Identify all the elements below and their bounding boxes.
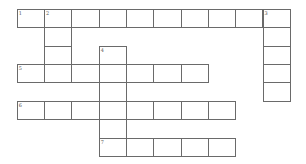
crossword-cell[interactable]	[208, 9, 236, 28]
crossword-cell[interactable]	[126, 101, 154, 120]
crossword-cell[interactable]: 6	[17, 101, 45, 120]
crossword-cell[interactable]	[263, 46, 291, 65]
crossword-cell[interactable]	[99, 82, 127, 101]
crossword-cell[interactable]	[44, 101, 72, 120]
crossword-cell[interactable]	[126, 138, 154, 157]
crossword-cell[interactable]: 7	[99, 138, 127, 157]
crossword-cell[interactable]	[44, 46, 72, 65]
crossword-cell[interactable]	[153, 64, 181, 83]
crossword-cell[interactable]	[263, 82, 291, 101]
crossword-cell[interactable]	[99, 119, 127, 138]
crossword-cell[interactable]	[208, 101, 236, 120]
crossword-cell[interactable]	[235, 9, 263, 28]
crossword-cell[interactable]	[44, 27, 72, 46]
crossword-cell[interactable]	[153, 9, 181, 28]
crossword-cell[interactable]	[263, 27, 291, 46]
crossword-cell[interactable]: 3	[263, 9, 291, 28]
crossword-grid: 1234567	[0, 0, 306, 164]
crossword-cell[interactable]	[181, 64, 209, 83]
crossword-cell[interactable]	[181, 101, 209, 120]
clue-number: 7	[101, 139, 104, 145]
crossword-cell[interactable]	[99, 101, 127, 120]
crossword-cell[interactable]: 5	[17, 64, 45, 83]
crossword-cell[interactable]	[44, 64, 72, 83]
crossword-cell[interactable]	[153, 101, 181, 120]
clue-number: 4	[101, 47, 104, 53]
clue-number: 6	[19, 102, 22, 108]
clue-number: 3	[265, 10, 268, 16]
crossword-cell[interactable]	[126, 64, 154, 83]
crossword-cell[interactable]	[71, 9, 99, 28]
crossword-cell[interactable]	[99, 64, 127, 83]
crossword-cell[interactable]	[181, 138, 209, 157]
crossword-cell[interactable]	[208, 138, 236, 157]
crossword-cell[interactable]	[181, 9, 209, 28]
clue-number: 1	[19, 10, 22, 16]
crossword-cell[interactable]: 4	[99, 46, 127, 65]
crossword-cell[interactable]	[263, 64, 291, 83]
crossword-cell[interactable]: 2	[44, 9, 72, 28]
clue-number: 5	[19, 65, 22, 71]
crossword-cell[interactable]: 1	[17, 9, 45, 28]
crossword-cell[interactable]	[99, 9, 127, 28]
crossword-cell[interactable]	[71, 64, 99, 83]
clue-number: 2	[46, 10, 49, 16]
crossword-cell[interactable]	[153, 138, 181, 157]
crossword-cell[interactable]	[126, 9, 154, 28]
crossword-cell[interactable]	[71, 101, 99, 120]
